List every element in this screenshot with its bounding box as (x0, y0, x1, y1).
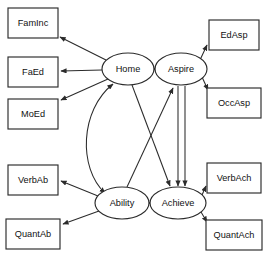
node-faminc[interactable]: FamInc (8, 8, 58, 38)
node-home[interactable]: Home (102, 53, 154, 85)
edge-aspire-to-edasp (200, 45, 207, 60)
node-achieve[interactable]: Achieve (150, 187, 206, 219)
node-faminc-label: FamInc (18, 18, 49, 28)
node-quantach[interactable]: QuantAch (206, 220, 262, 250)
node-verbab[interactable]: VerbAb (8, 165, 58, 195)
node-occasp-label: OccAsp (218, 98, 250, 108)
edge-home-to-faed (61, 70, 102, 71)
edge-achieve-to-verbach (202, 186, 206, 195)
node-quantab-label: QuantAb (15, 229, 51, 239)
node-layer: FamInc FaEd MoEd VerbAb QuantAb (6, 8, 262, 250)
node-edasp-label: EdAsp (220, 30, 247, 40)
node-verbach[interactable]: VerbAch (207, 163, 261, 193)
path-diagram-svg: FamInc FaEd MoEd VerbAb QuantAb (0, 0, 264, 253)
node-home-label: Home (116, 64, 141, 74)
edge-home-to-faminc (60, 37, 106, 60)
edge-home-to-achieve (132, 85, 170, 186)
node-faed[interactable]: FaEd (8, 57, 58, 87)
node-moed-label: MoEd (21, 109, 45, 119)
node-verbach-label: VerbAch (217, 173, 252, 183)
node-aspire[interactable]: Aspire (155, 53, 207, 85)
node-ability-label: Ability (110, 198, 135, 208)
node-faed-label: FaEd (22, 67, 44, 77)
edge-ability-to-verbab (61, 181, 98, 196)
node-moed[interactable]: MoEd (8, 99, 58, 129)
edge-ability-to-quantab (63, 211, 99, 224)
node-ability[interactable]: Ability (95, 187, 149, 219)
edge-ability-to-aspire (127, 88, 173, 187)
node-aspire-label: Aspire (168, 64, 194, 74)
node-occasp[interactable]: OccAsp (207, 88, 261, 118)
node-achieve-label: Achieve (162, 198, 195, 208)
node-edasp[interactable]: EdAsp (209, 20, 259, 50)
path-diagram-canvas: FamInc FaEd MoEd VerbAb QuantAb (0, 0, 264, 253)
node-verbab-label: VerbAb (18, 175, 48, 185)
node-quantach-label: QuantAch (214, 230, 255, 240)
edge-home-ability-covariance (86, 84, 113, 193)
node-quantab[interactable]: QuantAb (6, 219, 60, 249)
